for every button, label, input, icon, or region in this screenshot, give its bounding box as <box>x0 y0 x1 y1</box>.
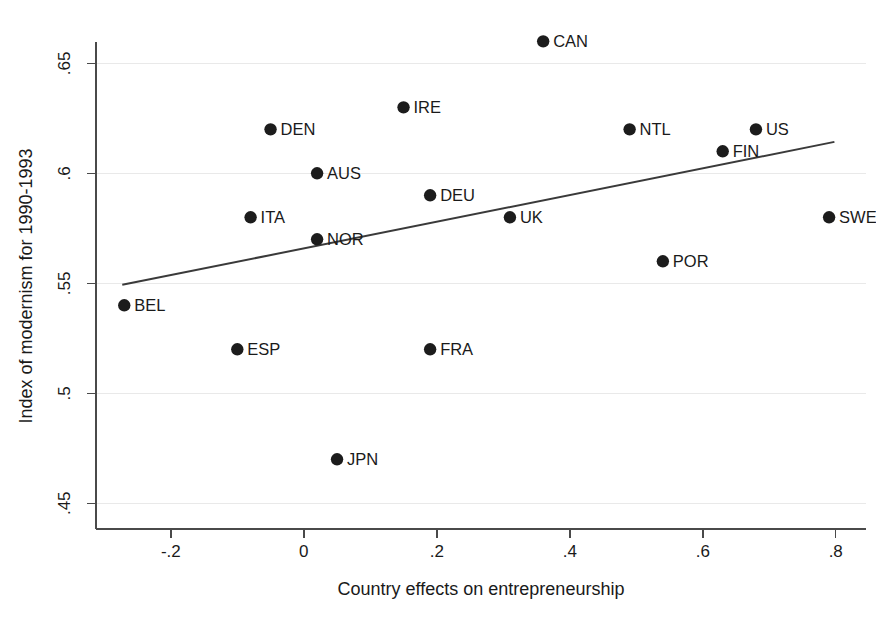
data-point[interactable]: UK <box>504 208 543 226</box>
point-marker[interactable] <box>750 123 762 135</box>
data-point[interactable]: CAN <box>537 32 588 50</box>
point-label: US <box>766 120 789 138</box>
y-tick-marks <box>87 63 96 503</box>
data-point[interactable]: ESP <box>231 340 280 358</box>
point-label: ESP <box>247 340 280 358</box>
data-point[interactable]: JPN <box>331 450 378 468</box>
point-label: IRE <box>414 98 442 116</box>
point-marker[interactable] <box>424 343 436 355</box>
x-tick-label: .2 <box>430 542 444 561</box>
data-point[interactable]: FIN <box>717 142 760 160</box>
data-point[interactable]: AUS <box>311 164 361 182</box>
point-marker[interactable] <box>231 343 243 355</box>
x-tick-label: 0 <box>299 542 308 561</box>
scatter-plot-figure: CANIREDENNTLUSFINAUSDEUITAUKSWENORPORBEL… <box>0 0 876 623</box>
point-label: FIN <box>733 142 760 160</box>
x-tick-label: .6 <box>696 542 710 561</box>
data-point[interactable]: BEL <box>118 296 165 314</box>
point-marker[interactable] <box>311 233 323 245</box>
x-axis-title: Country effects on entrepreneurship <box>338 579 625 599</box>
point-marker[interactable] <box>311 167 323 179</box>
point-label: SWE <box>839 208 876 226</box>
point-marker[interactable] <box>397 101 409 113</box>
data-point[interactable]: NTL <box>623 120 670 138</box>
point-marker[interactable] <box>331 453 343 465</box>
y-tick-label: .5 <box>55 386 74 400</box>
y-tick-label: .55 <box>55 271 74 295</box>
point-label: DEN <box>281 120 316 138</box>
data-point[interactable]: FRA <box>424 340 473 358</box>
data-point[interactable]: ITA <box>244 208 285 226</box>
point-marker[interactable] <box>623 123 635 135</box>
point-marker[interactable] <box>537 35 549 47</box>
point-label: NOR <box>327 230 364 248</box>
data-point[interactable]: POR <box>657 252 709 270</box>
point-label: JPN <box>347 450 378 468</box>
plot-canvas: CANIREDENNTLUSFINAUSDEUITAUKSWENORPORBEL… <box>0 0 876 623</box>
point-marker[interactable] <box>264 123 276 135</box>
point-marker[interactable] <box>504 211 516 223</box>
point-marker[interactable] <box>823 211 835 223</box>
point-marker[interactable] <box>657 255 669 267</box>
y-axis <box>87 42 96 529</box>
point-marker[interactable] <box>717 145 729 157</box>
x-tick-labels: -.20.2.4.6.8 <box>161 542 843 561</box>
point-label: NTL <box>640 120 671 138</box>
point-label: FRA <box>440 340 473 358</box>
point-marker[interactable] <box>424 189 436 201</box>
point-marker[interactable] <box>118 299 130 311</box>
data-point[interactable]: DEU <box>424 186 475 204</box>
data-point[interactable]: DEN <box>264 120 315 138</box>
data-points-group: CANIREDENNTLUSFINAUSDEUITAUKSWENORPORBEL… <box>118 32 876 468</box>
data-point[interactable]: IRE <box>397 98 441 116</box>
x-tick-marks <box>171 529 836 538</box>
regression-fit-line <box>122 142 834 285</box>
y-tick-label: .45 <box>55 491 74 515</box>
y-axis-title: Index of modernism for 1990-1993 <box>16 148 36 423</box>
point-label: ITA <box>261 208 285 226</box>
point-marker[interactable] <box>244 211 256 223</box>
point-label: POR <box>673 252 709 270</box>
x-tick-label: .4 <box>563 542 577 561</box>
point-label: DEU <box>440 186 475 204</box>
x-tick-label: .8 <box>829 542 843 561</box>
x-axis <box>96 529 866 538</box>
point-label: UK <box>520 208 543 226</box>
y-tick-label: .6 <box>55 166 74 180</box>
y-tick-labels: .45.5.55.6.65 <box>55 52 74 516</box>
point-label: BEL <box>134 296 165 314</box>
point-label: AUS <box>327 164 361 182</box>
data-point[interactable]: US <box>750 120 789 138</box>
data-point[interactable]: SWE <box>823 208 876 226</box>
point-label: CAN <box>553 32 588 50</box>
y-tick-label: .65 <box>55 52 74 76</box>
data-point[interactable]: NOR <box>311 230 364 248</box>
x-tick-label: -.2 <box>161 542 181 561</box>
fit-line <box>122 142 834 285</box>
